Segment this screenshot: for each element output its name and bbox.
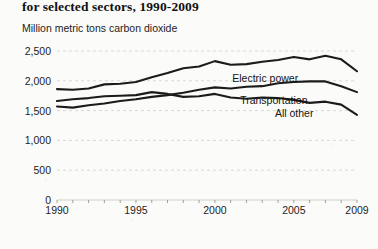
series-line-0 xyxy=(57,56,357,90)
plot-area xyxy=(57,51,357,200)
x-tick-label: 2005 xyxy=(282,204,305,216)
y-axis-labels: 05001,0001,5002,0002,500 xyxy=(0,51,51,200)
chart-page: for selected sectors, 1990-2009 Million … xyxy=(0,0,378,249)
data-lines xyxy=(57,56,357,115)
chart-title: for selected sectors, 1990-2009 xyxy=(22,0,199,15)
series-label-0: Electric power xyxy=(232,72,298,84)
gridlines xyxy=(57,51,357,200)
x-tick-label: 2000 xyxy=(203,204,226,216)
series-label-2: All other xyxy=(275,107,314,119)
x-tick-label: 1990 xyxy=(45,204,68,216)
chart-svg xyxy=(57,51,357,200)
chart-subtitle: Million metric tons carbon dioxide xyxy=(22,22,177,34)
y-tick-label: 1,000 xyxy=(25,134,51,146)
y-tick-label: 2,000 xyxy=(25,75,51,87)
y-tick-label: 500 xyxy=(33,164,51,176)
y-tick-label: 2,500 xyxy=(25,45,51,57)
x-tick-label: 2009 xyxy=(345,204,368,216)
x-axis-labels: 19901995200020052009 xyxy=(57,204,357,220)
y-tick-label: 1,500 xyxy=(25,105,51,117)
x-tick-label: 1995 xyxy=(124,204,147,216)
series-label-1: Transportation xyxy=(240,94,307,106)
